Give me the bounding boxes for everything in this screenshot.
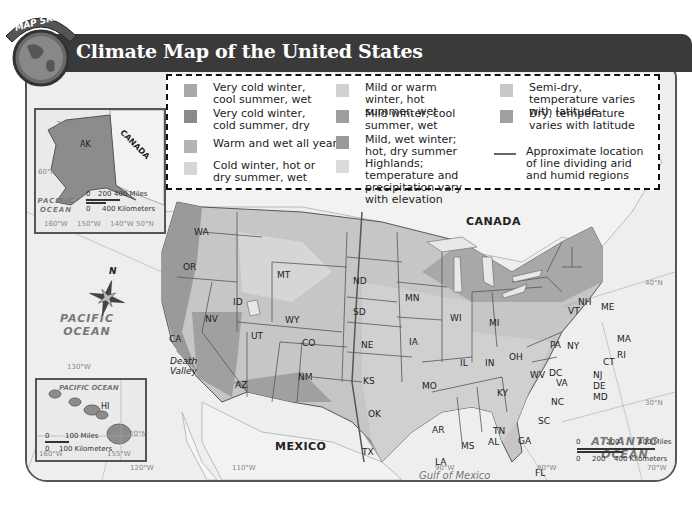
legend-swatch <box>336 136 349 149</box>
state-label: MS <box>461 441 474 451</box>
legend-swatch <box>184 140 197 153</box>
state-label: IN <box>485 358 494 368</box>
lat-label: 40°N <box>645 279 663 287</box>
legend-swatch <box>336 84 349 97</box>
feature-death-valley: DeathValley <box>170 356 210 376</box>
compass-rose: N <box>87 266 127 316</box>
state-label: UT <box>251 331 263 341</box>
state-label: AZ <box>235 380 247 390</box>
state-label: AR <box>432 425 444 435</box>
lat-label: 30°N <box>645 399 663 407</box>
lon-label: 120°W <box>130 464 154 472</box>
arid-line-symbol <box>494 153 516 155</box>
state-label: MO <box>422 381 437 391</box>
legend-item: Mild, wet winter; hot, dry summer <box>336 134 476 158</box>
state-label: NH <box>578 297 592 307</box>
state-label: ME <box>601 302 614 312</box>
ocean-pacific-inset: PACIFICOCEAN <box>36 197 76 215</box>
legend-swatch <box>336 110 349 123</box>
state-label: WA <box>194 227 209 237</box>
state-label: OH <box>509 352 523 362</box>
alaska-scale: 0 200 400 Miles 0 400 Kilometers <box>86 190 166 216</box>
state-label: CO <box>302 338 315 348</box>
state-label: MN <box>405 293 420 303</box>
state-label: SC <box>538 416 550 426</box>
state-label: PA <box>550 340 561 350</box>
legend-item: Very cold winter, cold summer, dry <box>184 108 324 132</box>
state-label: NV <box>205 314 218 324</box>
state-label-hi: HI <box>101 402 109 411</box>
state-label: MA <box>617 334 631 344</box>
state-label: WY <box>285 315 299 325</box>
compass-north-label: N <box>109 266 117 276</box>
state-label: ID <box>233 297 243 307</box>
state-label: WV <box>530 370 545 380</box>
state-label: VA <box>556 378 568 388</box>
state-label: KY <box>497 388 508 398</box>
ocean-gulf: Gulf of Mexico <box>419 470 490 481</box>
country-canada: CANADA <box>466 215 521 228</box>
legend-swatch <box>184 110 197 123</box>
legend-item: Very cold winter, cool summer, wet <box>184 82 324 106</box>
hawaii-scale: 0 100 Miles 0 100 Kilometers <box>45 432 125 452</box>
legend-item: Mild winter, cool summer, wet <box>336 108 481 132</box>
state-label: MD <box>593 392 608 402</box>
state-label: OK <box>368 409 381 419</box>
page-title: Climate Map of the United States <box>76 40 423 62</box>
state-label: AL <box>488 437 499 447</box>
legend-item: Approximate location of line dividing ar… <box>494 146 654 182</box>
state-label: MI <box>489 318 499 328</box>
lon-label: 90°W <box>435 464 454 472</box>
state-label: OR <box>183 262 196 272</box>
state-label: GA <box>518 436 531 446</box>
alaska-inset: AK CANADA PACIFICOCEAN 160°W 150°W 140°W… <box>34 108 166 234</box>
hawaii-inset: PACIFIC OCEAN HI 20°N 160°W 155°W 0 100 … <box>35 378 147 462</box>
lon-label: 80°W <box>537 464 556 472</box>
state-label: CA <box>169 334 181 344</box>
compass-star-icon <box>87 278 127 318</box>
state-label: CT <box>603 357 615 367</box>
legend: Very cold winter, cool summer, wet Very … <box>166 74 660 190</box>
state-label: NY <box>567 341 579 351</box>
legend-swatch <box>336 160 349 173</box>
state-label: SD <box>353 307 366 317</box>
lon-label: 130°W <box>67 363 91 371</box>
state-label: DC <box>549 368 562 378</box>
state-label: NJ <box>593 370 602 380</box>
legend-item: Highlands; temperature and precipitation… <box>336 158 486 206</box>
map-skill-badge: MAP SKILL <box>2 6 80 90</box>
legend-swatch <box>500 84 513 97</box>
state-label: NC <box>551 397 564 407</box>
state-label: TN <box>493 426 505 436</box>
legend-swatch <box>500 110 513 123</box>
legend-item: Dry, temperature varies with latitude <box>500 108 650 132</box>
state-label: MT <box>277 270 290 280</box>
state-label: KS <box>363 376 375 386</box>
state-label: NE <box>361 340 373 350</box>
state-label: IL <box>460 358 468 368</box>
state-label: DE <box>593 381 606 391</box>
state-label: VT <box>568 306 580 316</box>
map-scale: 0 200 400 Miles 0 200 400 Kilometers <box>576 438 676 468</box>
lon-label: 110°W <box>232 464 256 472</box>
state-label: ND <box>353 276 367 286</box>
country-mexico: MEXICO <box>275 440 326 453</box>
state-label: NM <box>298 372 313 382</box>
legend-swatch <box>184 84 197 97</box>
ocean-pacific-hawaii: PACIFIC OCEAN <box>59 384 119 392</box>
state-label: TX <box>362 447 374 457</box>
legend-item: Warm and wet all year <box>184 138 344 153</box>
state-label: WI <box>450 313 462 323</box>
state-label: IA <box>409 337 418 347</box>
state-label: RI <box>617 350 626 360</box>
legend-swatch <box>184 162 197 175</box>
legend-item: Cold winter, hot or dry summer, wet <box>184 160 334 184</box>
state-label-ak: AK <box>80 140 91 149</box>
